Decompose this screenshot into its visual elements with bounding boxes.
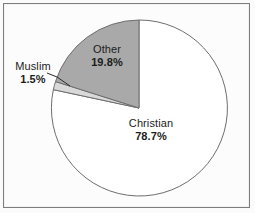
slice-label-christian: Christian 78.7%: [108, 117, 194, 143]
slice-label-christian-percent: 78.7%: [108, 130, 194, 143]
pie-plot-area: Other 19.8% Christian 78.7% Muslim 1.5%: [0, 0, 255, 213]
slice-label-other: Other 19.8%: [76, 43, 138, 69]
slice-label-other-name: Other: [76, 43, 138, 56]
slice-label-muslim: Muslim 1.5%: [4, 60, 62, 86]
slice-label-other-percent: 19.8%: [76, 56, 138, 69]
slice-label-christian-name: Christian: [108, 117, 194, 130]
slice-label-muslim-name: Muslim: [4, 60, 62, 73]
pie-svg: [0, 0, 255, 213]
pie-chart-figure: Other 19.8% Christian 78.7% Muslim 1.5%: [0, 0, 255, 213]
slice-label-muslim-percent: 1.5%: [4, 73, 62, 86]
